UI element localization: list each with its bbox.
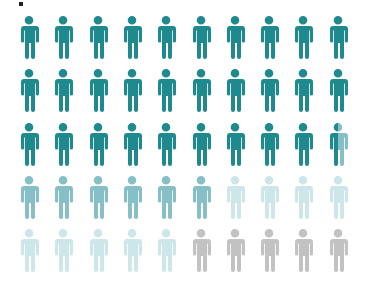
person-icon	[121, 69, 143, 112]
person-icon	[155, 16, 177, 59]
person-icon	[190, 176, 212, 219]
person-icon	[121, 123, 143, 166]
person-icon	[292, 16, 314, 59]
person-icon	[87, 69, 109, 112]
person-icon	[224, 16, 246, 59]
person-icon	[52, 123, 74, 166]
person-icon	[18, 229, 40, 272]
person-icon	[52, 69, 74, 112]
person-icon	[224, 69, 246, 112]
person-icon	[327, 176, 349, 219]
person-icon	[258, 176, 280, 219]
person-icon	[258, 16, 280, 59]
person-icon	[121, 229, 143, 272]
person-icon	[155, 123, 177, 166]
person-icon	[190, 229, 212, 272]
person-icon	[258, 69, 280, 112]
person-icon	[327, 16, 349, 59]
person-icon	[18, 69, 40, 112]
person-icon	[121, 16, 143, 59]
person-icon	[18, 123, 40, 166]
person-icon	[224, 176, 246, 219]
person-icon	[292, 123, 314, 166]
person-icon	[52, 16, 74, 59]
person-icon	[292, 69, 314, 112]
person-icon	[190, 69, 212, 112]
person-icon	[155, 176, 177, 219]
person-icon	[87, 229, 109, 272]
person-icon	[121, 176, 143, 219]
pictograph-grid	[18, 16, 358, 276]
person-icon	[155, 229, 177, 272]
person-icon	[224, 123, 246, 166]
person-icon	[52, 229, 74, 272]
person-icon	[327, 69, 349, 112]
person-icon	[327, 123, 349, 166]
person-icon	[258, 123, 280, 166]
person-icon	[155, 69, 177, 112]
person-icon	[258, 229, 280, 272]
person-icon	[224, 229, 246, 272]
person-icon	[87, 176, 109, 219]
person-icon	[292, 229, 314, 272]
person-icon	[18, 16, 40, 59]
person-icon	[190, 123, 212, 166]
person-icon	[190, 16, 212, 59]
person-icon	[327, 229, 349, 272]
person-icon	[52, 176, 74, 219]
person-icon	[292, 176, 314, 219]
person-icon	[87, 123, 109, 166]
corner-mark	[19, 2, 23, 6]
person-icon	[87, 16, 109, 59]
person-icon	[18, 176, 40, 219]
